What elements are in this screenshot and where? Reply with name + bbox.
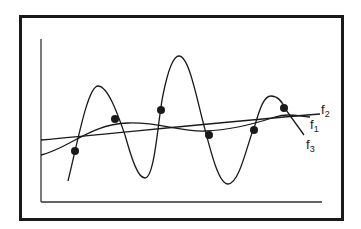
data-point [250, 126, 258, 134]
label-f3: f3 [306, 137, 315, 154]
curve-f3 [68, 56, 304, 184]
diagram-canvas: f2 f1 f3 [0, 0, 361, 229]
data-point [157, 106, 165, 114]
outer-frame [21, 17, 343, 220]
data-point [280, 104, 288, 112]
label-f1: f1 [310, 117, 319, 134]
curve-f1 [41, 115, 310, 155]
data-point [71, 147, 79, 155]
label-f2: f2 [321, 102, 330, 119]
data-point [111, 115, 119, 123]
data-point [205, 131, 213, 139]
data-points [71, 104, 288, 155]
